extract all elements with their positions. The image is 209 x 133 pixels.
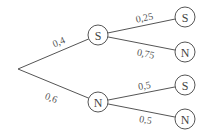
node-label: S — [95, 29, 102, 43]
node-label: S — [182, 79, 189, 93]
leaf-node-1: N — [175, 42, 195, 62]
node-label: N — [181, 46, 190, 60]
probability-tree: 0,40,60,250,750,50,5 SNSNSN — [0, 0, 209, 133]
leaf-node-3: N — [175, 109, 195, 129]
edge-probability-label: 0,5 — [137, 79, 151, 92]
node-label: S — [182, 11, 189, 25]
node-n1: N — [88, 92, 108, 112]
node-label: N — [181, 113, 190, 127]
node-s1: S — [88, 25, 108, 45]
edge-probability-label: 0,75 — [136, 46, 155, 60]
leaf-node-2: S — [175, 75, 195, 95]
edge-probability-label: 0,25 — [135, 10, 154, 24]
leaf-node-0: S — [175, 7, 195, 27]
node-label: N — [94, 96, 103, 110]
edge-probability-label: 0,4 — [51, 34, 67, 49]
edge-probability-label: 0,6 — [43, 90, 59, 105]
edge-probability-label: 0,5 — [138, 113, 152, 126]
